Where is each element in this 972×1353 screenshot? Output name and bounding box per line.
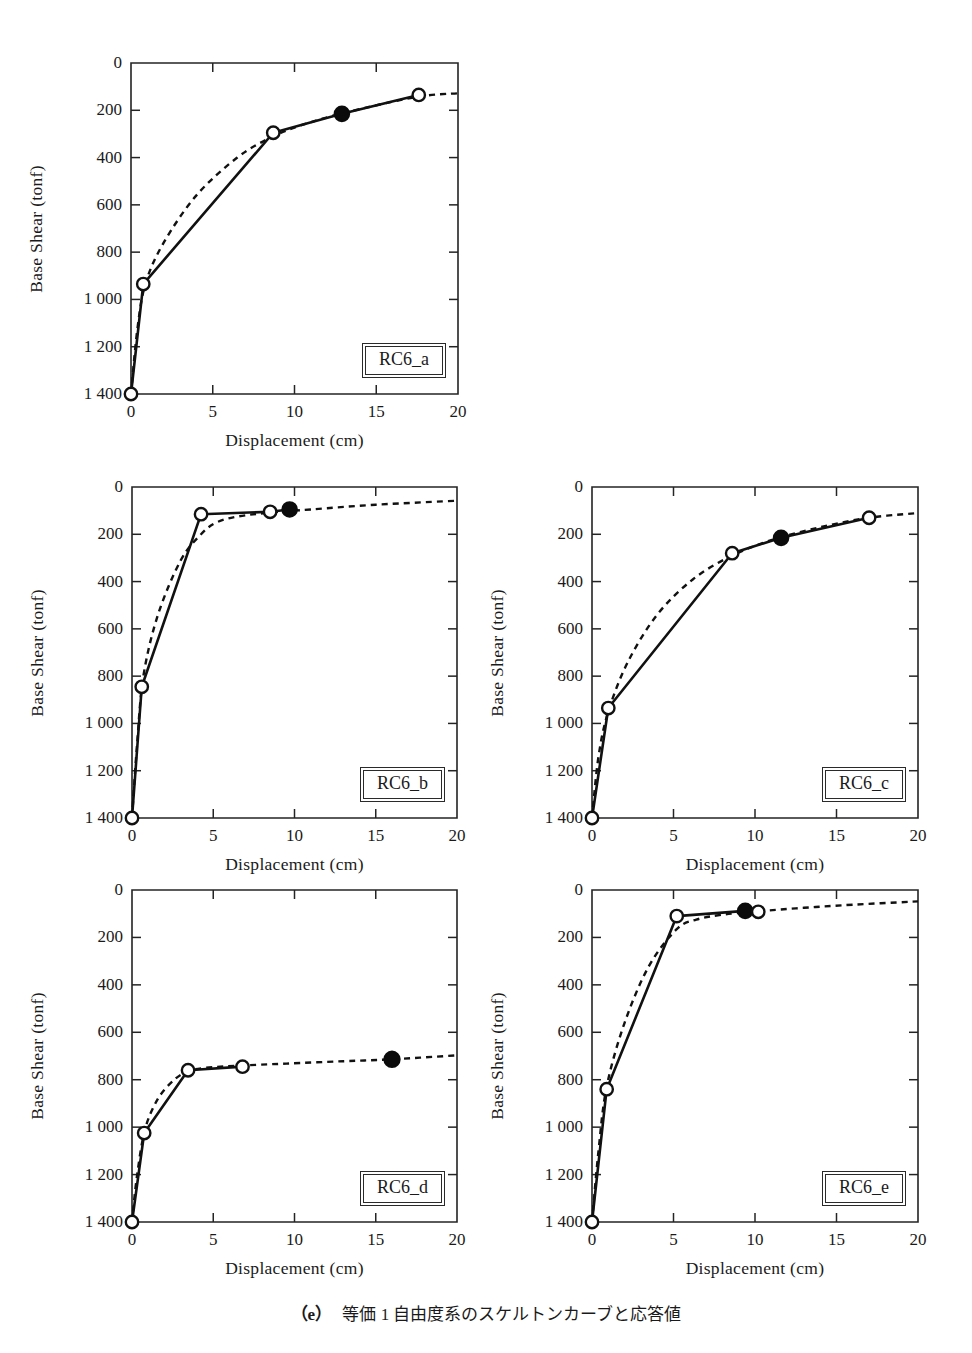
y-tick-label: 800 (513, 666, 583, 686)
x-tick-label: 0 (588, 1230, 597, 1250)
y-tick-label: 1 000 (513, 1117, 583, 1137)
chart-tag-rc6_d: RC6_d (360, 1171, 445, 1206)
x-tick-label: 5 (669, 1230, 678, 1250)
y-tick-label: 800 (52, 242, 122, 262)
skeleton-point-marker (126, 812, 138, 824)
caption-text: 等価 1 自由度系のスケルトンカーブと応答値 (342, 1305, 681, 1324)
y-tick-label: 1 200 (513, 761, 583, 781)
x-tick-label: 15 (828, 826, 845, 846)
y-tick-label: 400 (513, 572, 583, 592)
y-axis-label: Base Shear (tonf) (26, 165, 47, 293)
response-point-marker (282, 502, 296, 516)
figure-root: （e） 等価 1 自由度系のスケルトンカーブと応答値 1 4001 2001 0… (0, 0, 972, 1353)
y-tick-label: 600 (513, 619, 583, 639)
skeleton-point-marker (726, 547, 738, 559)
y-tick-label: 1 400 (53, 1212, 123, 1232)
y-tick-label: 800 (53, 666, 123, 686)
y-tick-label: 600 (52, 195, 122, 215)
x-axis-label: Displacement (cm) (131, 430, 458, 451)
skeleton-point-marker (586, 812, 598, 824)
skeleton-point-marker (413, 89, 425, 101)
chart-panel-rc6_d: 1 4001 2001 000800600400200005101520Base… (132, 890, 457, 1222)
y-tick-label: 1 000 (52, 289, 122, 309)
skeleton-point-marker (126, 1216, 138, 1228)
chart-tag-rc6_a: RC6_a (362, 343, 446, 378)
skeleton-point-marker (137, 278, 149, 290)
y-tick-label: 0 (53, 477, 123, 497)
x-tick-label: 20 (449, 826, 466, 846)
y-tick-label: 1 200 (513, 1165, 583, 1185)
y-tick-label: 1 000 (53, 713, 123, 733)
y-tick-label: 600 (53, 1022, 123, 1042)
x-tick-label: 10 (747, 1230, 764, 1250)
x-tick-label: 10 (286, 402, 303, 422)
chart-tag-label: RC6_c (825, 770, 903, 799)
y-tick-label: 1 400 (513, 1212, 583, 1232)
chart-tag-label: RC6_b (363, 770, 442, 799)
x-axis-label: Displacement (cm) (592, 854, 918, 875)
skeleton-point-marker (671, 910, 683, 922)
series-skeleton-curve (132, 509, 290, 818)
y-tick-label: 0 (53, 880, 123, 900)
x-tick-label: 20 (449, 1230, 466, 1250)
x-tick-label: 5 (209, 1230, 218, 1250)
x-axis-label: Displacement (cm) (592, 1258, 918, 1279)
y-tick-label: 800 (513, 1070, 583, 1090)
chart-panel-rc6_b: 1 4001 2001 000800600400200005101520Base… (132, 487, 457, 818)
y-tick-label: 1 400 (53, 808, 123, 828)
skeleton-point-marker (602, 702, 614, 714)
x-tick-label: 20 (910, 1230, 927, 1250)
y-axis-label: Base Shear (tonf) (27, 992, 48, 1120)
skeleton-point-marker (195, 508, 207, 520)
x-tick-label: 15 (368, 402, 385, 422)
y-tick-label: 200 (52, 100, 122, 120)
x-tick-label: 15 (367, 826, 384, 846)
y-tick-label: 400 (513, 975, 583, 995)
y-tick-label: 1 400 (513, 808, 583, 828)
chart-tag-label: RC6_a (365, 346, 443, 375)
x-tick-label: 15 (828, 1230, 845, 1250)
y-tick-label: 200 (513, 927, 583, 947)
x-axis-label: Displacement (cm) (132, 854, 457, 875)
y-axis-label: Base Shear (tonf) (487, 589, 508, 717)
y-tick-label: 400 (53, 572, 123, 592)
response-point-marker (384, 1052, 399, 1067)
x-tick-label: 5 (669, 826, 678, 846)
response-point-marker (774, 531, 788, 545)
y-tick-label: 1 000 (53, 1117, 123, 1137)
y-tick-label: 1 200 (53, 761, 123, 781)
y-tick-label: 0 (513, 880, 583, 900)
chart-panel-rc6_a: 1 4001 2001 000800600400200005101520Base… (131, 63, 458, 394)
skeleton-point-marker (586, 1216, 598, 1228)
x-tick-label: 20 (450, 402, 467, 422)
x-tick-label: 20 (910, 826, 927, 846)
x-tick-label: 0 (128, 826, 137, 846)
y-tick-label: 200 (53, 524, 123, 544)
chart-tag-rc6_c: RC6_c (822, 767, 906, 802)
y-tick-label: 200 (53, 927, 123, 947)
series-skeleton-curve (592, 911, 758, 1222)
skeleton-point-marker (136, 681, 148, 693)
chart-tag-rc6_b: RC6_b (360, 767, 445, 802)
x-tick-label: 10 (286, 1230, 303, 1250)
skeleton-point-marker (600, 1083, 612, 1095)
skeleton-point-marker (267, 127, 279, 139)
series-skeleton-curve (132, 1067, 243, 1222)
y-tick-label: 400 (53, 975, 123, 995)
skeleton-point-marker (138, 1127, 150, 1139)
y-tick-label: 400 (52, 148, 122, 168)
chart-panel-rc6_c: 1 4001 2001 000800600400200005101520Base… (592, 487, 918, 818)
x-axis-label: Displacement (cm) (132, 1258, 457, 1279)
y-tick-label: 1 000 (513, 713, 583, 733)
y-tick-label: 800 (53, 1070, 123, 1090)
x-tick-label: 0 (588, 826, 597, 846)
x-tick-label: 15 (367, 1230, 384, 1250)
y-tick-label: 0 (52, 53, 122, 73)
x-tick-label: 10 (747, 826, 764, 846)
y-tick-label: 1 200 (52, 337, 122, 357)
y-tick-label: 1 400 (52, 384, 122, 404)
y-tick-label: 600 (513, 1022, 583, 1042)
x-tick-label: 5 (209, 826, 218, 846)
chart-tag-label: RC6_d (363, 1174, 442, 1203)
figure-caption: （e） 等価 1 自由度系のスケルトンカーブと応答値 (0, 1300, 972, 1325)
